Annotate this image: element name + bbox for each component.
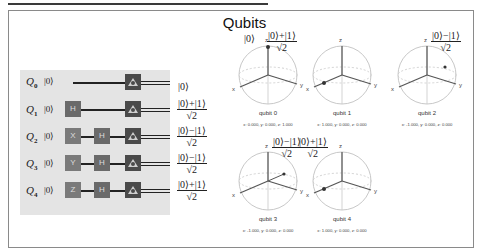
classical-wire-4a <box>141 189 170 190</box>
qubit-index: 1 <box>34 110 38 118</box>
z-axis-label: z <box>424 37 427 43</box>
init-state-4: |0⟩ <box>44 185 54 195</box>
gate-h: H <box>94 155 110 171</box>
frac-num: |0⟩−|1⟩ <box>431 30 461 42</box>
classical-wire-4b <box>141 192 170 193</box>
qubit-name: qubit 0 <box>228 110 308 116</box>
measure-icon <box>125 182 141 198</box>
qubit-name: qubit 1 <box>302 110 382 116</box>
measure-icon <box>125 101 141 117</box>
z-axis-label: z <box>339 143 342 149</box>
classical-wire-0b <box>141 84 170 85</box>
frac-den: √2 <box>177 110 207 121</box>
y-axis-label: y <box>459 82 462 88</box>
frac-den: √2 <box>267 42 297 53</box>
frac-num: |0⟩+|1⟩ <box>177 179 207 191</box>
bloch-sphere-graphic <box>302 30 382 110</box>
output-state-3: |0⟩−|1⟩√2 <box>177 152 207 175</box>
figure-title: Qubits <box>0 14 481 31</box>
qubit-name: qubit 2 <box>387 110 467 116</box>
y-axis-label: y <box>374 82 377 88</box>
top-rule <box>8 3 268 5</box>
x-axis-label: x <box>232 86 235 92</box>
init-state-0: |0⟩ <box>44 76 54 86</box>
x-axis-label: x <box>306 86 309 92</box>
frac-num: |0⟩+|1⟩ <box>298 136 328 148</box>
qubit-index: 4 <box>34 191 38 199</box>
measure-icon <box>125 74 141 90</box>
qubit-letter: Q <box>26 103 34 115</box>
measure-icon <box>125 155 141 171</box>
qubit-label-2: Q2 <box>26 130 37 145</box>
wire-2a <box>81 136 95 138</box>
wire-2b <box>110 136 126 138</box>
classical-wire-1a <box>141 108 170 109</box>
state-label: |0⟩ <box>244 33 255 44</box>
gate-x: X <box>65 128 81 144</box>
qubit-label-4: Q4 <box>26 184 37 199</box>
classical-wire-2b <box>141 138 170 139</box>
qubit-index: 2 <box>34 137 38 145</box>
wire-3b <box>110 163 126 165</box>
y-axis-label: y <box>374 188 377 194</box>
frac-num: |0⟩−|1⟩ <box>177 152 207 164</box>
qubit-index: 0 <box>34 82 38 90</box>
wire-4a <box>81 190 95 192</box>
state-label: |0⟩+|1⟩√2 <box>267 30 297 53</box>
frac-den: √2 <box>298 148 328 159</box>
init-state-2: |0⟩ <box>44 131 54 141</box>
qubit-letter: Q <box>26 75 34 87</box>
z-axis-label: z <box>339 37 342 43</box>
output-state-1: |0⟩+|1⟩√2 <box>177 98 207 121</box>
classical-wire-3b <box>141 165 170 166</box>
classical-wire-3a <box>141 162 170 163</box>
measure-icon <box>125 128 141 144</box>
output-state-2: |0⟩−|1⟩√2 <box>177 125 207 148</box>
title-text: Qubits <box>223 14 266 31</box>
qubit-label-0: Q0 <box>26 75 37 90</box>
qubit-coords: x: -1.000, y: 0.000, z: 0.000 <box>377 122 477 127</box>
frac-num: |0⟩+|1⟩ <box>177 98 207 110</box>
quantum-circuit: Q0 |0⟩ Q1 |0⟩ H Q2 |0⟩ X H Q3 |0⟩ Y H Q4… <box>20 70 170 215</box>
wire-3a <box>81 163 95 165</box>
wire-1 <box>81 109 127 111</box>
classical-wire-1b <box>141 111 170 112</box>
output-state-4: |0⟩+|1⟩√2 <box>177 179 207 202</box>
output-state-0: |0⟩ <box>178 81 189 92</box>
frac-den: √2 <box>177 164 207 175</box>
bloch-sphere-qubit-2: z x y |0⟩−|1⟩√2 qubit 2 x: -1.000, y: 0.… <box>387 30 467 135</box>
qubit-letter: Q <box>26 184 34 196</box>
frac-num: |0⟩−|1⟩ <box>177 125 207 137</box>
qubit-letter: Q <box>26 130 34 142</box>
bloch-sphere-qubit-4: z x y |0⟩+|1⟩√2 qubit 4 x: 1.000, y: 0.0… <box>302 136 382 241</box>
classical-wire-0a <box>141 81 170 82</box>
bloch-sphere-qubit-3: z x y |0⟩−|1⟩√2 qubit 3 x: -1.000, y: 0.… <box>228 136 308 241</box>
state-label: |0⟩+|1⟩√2 <box>298 136 328 159</box>
qubit-label-3: Q3 <box>26 157 37 172</box>
qubit-coords: x: 1.000, y: 0.000, z: 0.000 <box>292 228 392 233</box>
x-axis-label: x <box>306 192 309 198</box>
gate-h: H <box>94 128 110 144</box>
gate-h: H <box>65 101 81 117</box>
frac-den: √2 <box>177 137 207 148</box>
state-label: |0⟩−|1⟩√2 <box>431 30 461 53</box>
x-axis-label: x <box>391 86 394 92</box>
qubit-letter: Q <box>26 157 34 169</box>
bloch-sphere-qubit-1: z x y |0⟩+|1⟩√2 qubit 1 x: 1.000, y: 0.0… <box>302 30 382 135</box>
frac-den: √2 <box>431 42 461 53</box>
frac-den: √2 <box>177 191 207 202</box>
init-state-1: |0⟩ <box>44 104 54 114</box>
z-axis-label: z <box>265 143 268 149</box>
gate-z: Z <box>65 182 81 198</box>
wire-4b <box>110 190 126 192</box>
qubit-name: qubit 4 <box>302 216 382 222</box>
qubit-index: 3 <box>34 164 38 172</box>
gate-h: H <box>94 182 110 198</box>
classical-wire-2a <box>141 135 170 136</box>
x-axis-label: x <box>232 192 235 198</box>
wire-0 <box>73 82 127 84</box>
gate-y: Y <box>65 155 81 171</box>
qubit-name: qubit 3 <box>228 216 308 222</box>
init-state-3: |0⟩ <box>44 158 54 168</box>
qubit-label-1: Q1 <box>26 103 37 118</box>
